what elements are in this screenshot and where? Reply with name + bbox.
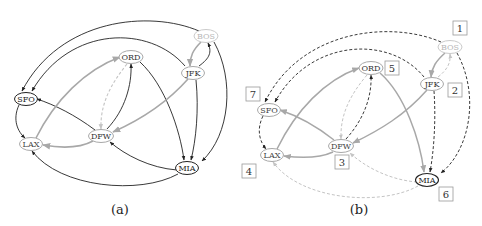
edge-bos-jfk	[431, 53, 445, 77]
node-mia: MIA	[416, 174, 439, 187]
order-box-label: 1	[457, 23, 463, 34]
edge-bos-sfo	[22, 21, 199, 91]
order-box-5: 5	[385, 61, 399, 75]
node-label: MIA	[178, 164, 195, 173]
node-label: DFW	[331, 142, 352, 151]
node-label: SFO	[260, 106, 278, 115]
edge-lax-ord	[277, 68, 359, 149]
node-label: ORD	[122, 53, 141, 62]
panel-a-light-edges	[101, 64, 127, 129]
caption-b: (b)	[350, 202, 368, 217]
edge-dfw-lax	[284, 152, 333, 157]
node-dfw: DFW	[89, 130, 114, 143]
caption-a: (a)	[111, 202, 129, 217]
node-dfw: DFW	[329, 140, 354, 153]
node-sfo: SFO	[258, 104, 281, 117]
edge-sfo-lax	[259, 116, 266, 149]
edge-mia-dfw	[350, 153, 417, 182]
edge-dfw-lax	[43, 141, 93, 147]
edge-jfk-sfo	[275, 49, 424, 102]
order-box-7: 7	[246, 87, 260, 101]
node-label: SFO	[17, 95, 35, 104]
figure-canvas: BOS JFK ORD SFO DFW LAX	[0, 0, 482, 226]
node-label: DFW	[91, 132, 112, 141]
edge-dfw-sfo	[280, 110, 334, 140]
order-box-label: 5	[389, 63, 395, 74]
node-sfo: SFO	[15, 93, 38, 106]
node-lax: LAX	[20, 138, 43, 151]
node-ord: ORD	[359, 62, 383, 75]
order-box-1: 1	[453, 21, 467, 35]
edge-ord-mia	[140, 62, 184, 160]
node-label: LAX	[264, 151, 281, 160]
panel-a: BOS JFK ORD SFO DFW LAX	[15, 21, 227, 217]
node-jfk: JFK	[421, 78, 444, 91]
node-bos: BOS	[438, 41, 462, 54]
node-ord: ORD	[119, 51, 143, 64]
node-bos: BOS	[194, 30, 218, 43]
edge-jfk-mia	[430, 91, 435, 172]
edge-dfw-ord	[346, 75, 371, 139]
order-box-3: 3	[335, 155, 349, 169]
edge-mia-dfw	[110, 142, 177, 170]
node-label: BOS	[197, 32, 215, 41]
edge-ord-dfw	[101, 64, 127, 129]
edge-jfk-dfw	[113, 79, 188, 132]
order-box-label: 4	[246, 166, 252, 177]
node-label: ORD	[362, 64, 381, 73]
edge-ord-mia	[380, 73, 424, 172]
edge-jfk-sfo	[32, 38, 185, 91]
panel-a-dark-edges	[16, 21, 227, 186]
edge-jfk-mia	[191, 80, 197, 160]
node-lax: LAX	[261, 149, 284, 162]
node-mia: MIA	[176, 162, 199, 175]
order-box-2: 2	[448, 83, 462, 97]
panel-b: BOS JFK ORD SFO DFW LAX	[242, 21, 470, 217]
panel-b-dark-dashed-edges	[259, 32, 469, 173]
node-label: LAX	[23, 140, 40, 149]
order-box-label: 2	[452, 85, 458, 96]
order-box-label: 6	[443, 189, 449, 200]
node-label: BOS	[441, 43, 459, 52]
edge-bos-mia	[441, 53, 470, 173]
edge-bos-sfo	[265, 32, 441, 102]
edge-sfo-lax	[16, 105, 25, 138]
node-label: JFK	[424, 80, 441, 89]
node-label: JFK	[185, 69, 202, 78]
order-box-label: 3	[339, 157, 345, 168]
edge-bos-jfk	[190, 42, 201, 66]
edge-jfk-bos	[199, 43, 210, 66]
node-label: MIA	[418, 176, 435, 185]
edge-mia-lax	[32, 151, 178, 186]
edge-dfw-sfo	[37, 99, 95, 130]
order-box-4: 4	[242, 164, 256, 178]
order-box-label: 7	[250, 89, 256, 100]
node-jfk: JFK	[182, 67, 205, 80]
order-box-6: 6	[439, 187, 453, 201]
